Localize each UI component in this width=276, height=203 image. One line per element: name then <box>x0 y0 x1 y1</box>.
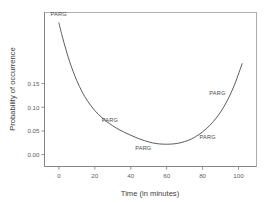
curve-point-label: PARG <box>209 90 225 96</box>
y-tick-label: 0.10 <box>27 104 40 111</box>
chart-figure: 020406080100 0.000.050.100.15 PARGPARGPA… <box>0 0 276 203</box>
curve-point-label: PARG <box>199 134 215 140</box>
y-tick-label: 0.15 <box>27 80 40 87</box>
y-tick-label: 0.00 <box>27 151 40 158</box>
x-tick-label: 0 <box>57 172 61 179</box>
curve-point-label: PARG <box>102 117 118 123</box>
x-axis-title: Time (in minutes) <box>121 189 180 198</box>
curve-point-label: PARG <box>135 145 151 151</box>
y-tick-label: 0.05 <box>27 127 40 134</box>
curve-point-label: PARG <box>51 11 67 17</box>
x-tick-label: 20 <box>91 172 98 179</box>
x-tick-label: 100 <box>233 172 244 179</box>
x-tick-label: 60 <box>163 172 170 179</box>
y-axis-title: Probability of occurrence <box>8 47 17 131</box>
x-tick-label: 80 <box>199 172 206 179</box>
x-tick-label: 40 <box>127 172 134 179</box>
probability-of-occurrence-chart: 020406080100 0.000.050.100.15 PARGPARGPA… <box>0 0 276 203</box>
